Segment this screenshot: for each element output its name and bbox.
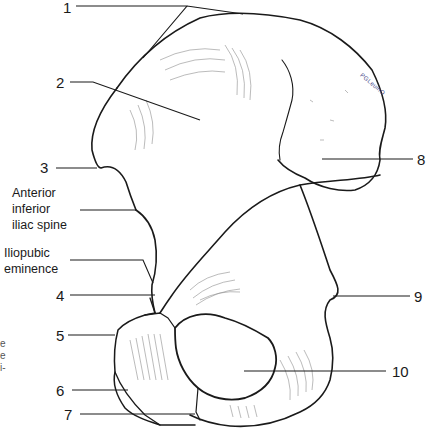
label-anterior-inferior-iliac-spine: Anterior inferior iliac spine	[12, 185, 67, 233]
label-1: 1	[63, 0, 71, 15]
label-2: 2	[56, 75, 64, 90]
aiis-line-3: iliac spine	[12, 217, 67, 233]
label-7: 7	[64, 407, 72, 422]
greater-sciatic-notch	[160, 175, 380, 313]
cutoff-line-1: e	[0, 338, 6, 350]
cutoff-line-3: i-	[0, 362, 6, 374]
leader-2	[70, 82, 200, 120]
label-iliopubic-eminence: Iliopubic eminence	[4, 245, 58, 277]
iliopubic-line-2: eminence	[4, 261, 58, 277]
iliac-crest-outline	[117, 14, 386, 191]
label-10: 10	[392, 364, 409, 379]
label-3: 3	[40, 160, 48, 175]
aiis-line-1: Anterior	[12, 185, 67, 201]
iliopubic-line-1: Iliopubic	[4, 245, 58, 261]
ischial-border	[190, 185, 338, 426]
anterior-border	[92, 88, 136, 210]
hip-bone-diagram: 1 2 3 4 5 6 7 8 9 10 Anterior inferior i…	[0, 0, 427, 433]
leader-iliopubic	[70, 260, 153, 283]
cutoff-text: e e i-	[0, 338, 6, 374]
label-4: 4	[56, 288, 64, 303]
acetabular-opening	[175, 314, 276, 399]
label-6: 6	[56, 383, 64, 398]
label-9: 9	[414, 289, 422, 304]
label-5: 5	[56, 328, 64, 343]
cutoff-line-2: e	[0, 350, 6, 362]
aiis-line-2: inferior	[12, 201, 67, 217]
label-8: 8	[417, 152, 425, 167]
